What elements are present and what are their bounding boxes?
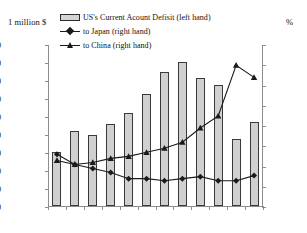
plot-area: 0100000200000300000400000500000600000700… — [48, 45, 263, 207]
line-japan — [57, 154, 254, 180]
marker-japan-1999 — [54, 151, 60, 157]
marker-china-2009 — [233, 62, 239, 68]
bottom-tick — [263, 206, 264, 210]
left-tick-label-200000: 200000 — [0, 166, 1, 176]
left-tick-label-800000: 800000 — [0, 58, 1, 68]
left-tick-label-400000: 400000 — [0, 130, 1, 140]
marker-china-2008 — [215, 113, 221, 119]
left-tick-label-900000: 900000 — [0, 40, 1, 50]
left-tick-label-0: 0 — [0, 202, 1, 212]
marker-japan-2005 — [161, 178, 167, 184]
legend-label-deficit: US's Current Acount Defisit (left hand) — [83, 13, 211, 22]
marker-china-2010 — [251, 74, 257, 80]
legend-item-japan: to Japan (right hand) — [60, 24, 211, 38]
left-axis-unit-label: 1 million $ — [8, 17, 46, 27]
marker-japan-2002 — [108, 170, 114, 176]
marker-japan-2004 — [144, 176, 150, 182]
diamond-marker-icon — [60, 27, 80, 35]
left-tick-label-100000: 100000 — [0, 184, 1, 194]
marker-japan-2001 — [90, 166, 96, 172]
marker-japan-2008 — [215, 178, 221, 184]
line-china — [57, 65, 254, 164]
marker-china-2007 — [197, 125, 203, 131]
left-tick-label-500000: 500000 — [0, 112, 1, 122]
left-tick-label-700000: 700000 — [0, 76, 1, 86]
right-axis-unit-label: % — [286, 17, 293, 27]
line-series-group — [48, 45, 263, 207]
legend-item-deficit: US's Current Acount Defisit (left hand) — [60, 10, 211, 24]
marker-japan-2006 — [179, 176, 185, 182]
chart-container: 1 million $ % US's Current Acount Defisi… — [0, 0, 307, 233]
marker-japan-2010 — [251, 173, 257, 179]
left-tick-label-300000: 300000 — [0, 148, 1, 158]
marker-china-1999 — [54, 157, 60, 163]
bar-swatch-icon — [60, 14, 80, 21]
marker-japan-2007 — [197, 174, 203, 180]
marker-japan-2003 — [126, 176, 132, 182]
left-tick-label-600000: 600000 — [0, 94, 1, 104]
marker-japan-2009 — [233, 178, 239, 184]
legend-label-japan: to Japan (right hand) — [83, 27, 150, 36]
